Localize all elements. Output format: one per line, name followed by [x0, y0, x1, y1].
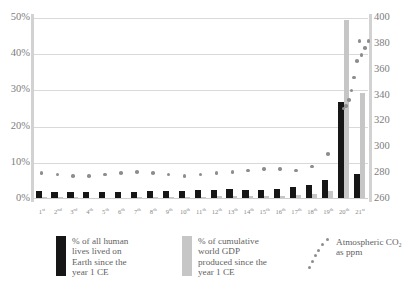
y-axis-right-tick-label: 340 — [374, 89, 402, 100]
y-axis-right-tick-label: 280 — [374, 166, 402, 177]
chart-container: 0%10%20%30%40%50% 2602803003203403603804… — [0, 0, 406, 298]
legend-swatch-dots — [306, 236, 332, 270]
legend-dot — [321, 243, 324, 246]
x-axis-tick-label: 10th — [177, 207, 193, 215]
plot-area — [34, 18, 368, 199]
x-axis-tick-label: 2nd — [50, 207, 66, 215]
y-axis-left-tick-label: 0% — [0, 192, 30, 203]
co2-data-point — [151, 171, 155, 175]
co2-data-point — [294, 169, 298, 173]
x-axis-ticks: 1st2nd3rd4th5th6th7th8th9th10th11th12th1… — [34, 201, 368, 215]
y-axis-right-tick-label: 320 — [374, 114, 402, 125]
x-axis-baseline — [34, 198, 368, 199]
y-axis-left-tick-label: 30% — [0, 83, 30, 94]
x-axis-tick-label: 14th — [241, 207, 257, 215]
chart-legend: % of all human lives lived on Earth sinc… — [34, 236, 406, 296]
x-axis-tick-label: 16th — [273, 207, 289, 215]
bar-human-lives — [306, 185, 312, 199]
co2-data-point — [262, 167, 266, 171]
y-axis-right-tick-label: 380 — [374, 37, 402, 48]
legend-dot — [311, 260, 314, 263]
co2-data-point — [215, 171, 219, 175]
gridline — [34, 127, 368, 128]
y-axis-left-tick-label: 50% — [0, 11, 30, 22]
co2-data-point — [355, 59, 359, 63]
co2-data-point — [347, 98, 351, 102]
legend-item-world-gdp: % of cumulative world GDP produced since… — [182, 236, 307, 278]
y-axis-left-tick-label: 20% — [0, 120, 30, 131]
co2-data-point — [363, 46, 367, 50]
co2-data-point — [167, 173, 171, 177]
x-axis-tick-label: 11th — [193, 207, 209, 215]
x-axis-tick-label: 20th — [336, 207, 352, 215]
legend-label-human-lives: % of all human lives lived on Earth sinc… — [72, 236, 128, 278]
bar-human-lives — [354, 174, 360, 199]
co2-data-point — [352, 76, 356, 80]
co2-data-point — [246, 169, 250, 173]
co2-data-point — [71, 174, 75, 178]
co2-data-point — [278, 167, 282, 171]
legend-swatch-black — [56, 236, 66, 276]
x-axis-tick-label: 12th — [209, 207, 225, 215]
co2-data-point — [199, 173, 203, 177]
co2-data-point — [350, 89, 354, 93]
legend-swatch-gray — [182, 236, 192, 276]
x-axis-tick-label: 3rd — [66, 207, 82, 215]
x-axis-tick-label: 6th — [114, 207, 130, 215]
x-axis-tick-label: 5th — [98, 207, 114, 215]
x-axis-tick-label: 4th — [82, 207, 98, 215]
x-axis-tick-label: 19th — [320, 207, 336, 215]
x-axis-tick-label: 13th — [225, 207, 241, 215]
x-axis-tick-label: 7th — [129, 207, 145, 215]
gridline — [34, 163, 368, 164]
y-axis-left-tick-label: 40% — [0, 47, 30, 58]
co2-data-point — [103, 173, 107, 177]
legend-dot — [326, 238, 329, 241]
gridline — [34, 18, 368, 19]
co2-data-point — [135, 170, 139, 174]
legend-dot — [308, 266, 311, 269]
x-axis-tick-label: 8th — [145, 207, 161, 215]
co2-data-point — [326, 152, 330, 156]
co2-data-point — [231, 170, 235, 174]
legend-item-co2: Atmospheric CO₂ as ppm — [306, 236, 406, 270]
legend-item-human-lives: % of all human lives lived on Earth sinc… — [56, 236, 176, 278]
y-axis-right-tick-label: 300 — [374, 140, 402, 151]
x-axis-tick-label: 15th — [257, 207, 273, 215]
co2-data-point — [40, 171, 44, 175]
bar-human-lives — [322, 180, 328, 199]
x-axis-tick-label: 17th — [288, 207, 304, 215]
x-axis-tick-label: 21st — [352, 207, 368, 215]
legend-dot — [314, 254, 317, 257]
co2-data-point — [358, 39, 362, 43]
legend-dot — [317, 249, 320, 252]
legend-label-co2: Atmospheric CO₂ as ppm — [336, 236, 402, 258]
gridline — [34, 54, 368, 55]
y-axis-right-tick-label: 400 — [374, 11, 402, 22]
bar-human-lives — [338, 102, 344, 199]
x-axis-tick-label: 1st — [34, 207, 50, 215]
x-axis-tick-label: 9th — [161, 207, 177, 215]
co2-data-point — [56, 173, 60, 177]
co2-data-point — [310, 165, 314, 169]
bar-gdp — [360, 93, 365, 199]
plot-inner — [34, 18, 368, 199]
y-axis-right-tick-label: 360 — [374, 63, 402, 74]
co2-data-point — [183, 174, 187, 178]
co2-data-point — [360, 53, 364, 57]
legend-label-world-gdp: % of cumulative world GDP produced since… — [198, 236, 267, 278]
co2-data-point — [119, 171, 123, 175]
y-axis-left-tick-label: 10% — [0, 156, 30, 167]
co2-data-point — [87, 174, 91, 178]
x-axis-tick-label: 18th — [304, 207, 320, 215]
gridline — [34, 90, 368, 91]
y-axis-right-tick-label: 260 — [374, 192, 402, 203]
